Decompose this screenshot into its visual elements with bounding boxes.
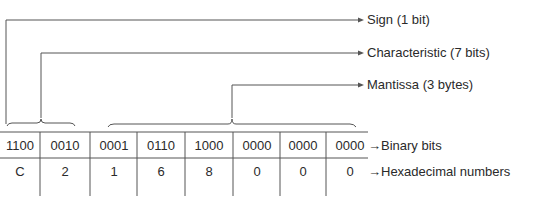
hex-cell: 0 [327, 164, 373, 179]
binary-cell: 0000 [327, 138, 373, 153]
characteristic-label: Characteristic (7 bits) [367, 45, 490, 60]
binary-cell: 0110 [138, 138, 184, 153]
binary-cell: 0010 [42, 138, 88, 153]
hex-cell: 2 [42, 164, 88, 179]
binary-cell: 0000 [280, 138, 326, 153]
hex-cell: C [0, 164, 43, 179]
hex-cell: 8 [186, 164, 232, 179]
sign-label: Sign (1 bit) [367, 12, 430, 27]
binary-cell: 0001 [91, 138, 137, 153]
hex-cell: 6 [138, 164, 184, 179]
binary-cell: 1100 [0, 138, 43, 153]
binary-row-label: →Binary bits [368, 138, 442, 153]
hex-cell: 1 [91, 164, 137, 179]
arrow-right-icon: → [368, 138, 381, 153]
binary-cell: 0000 [234, 138, 280, 153]
hex-cell: 0 [234, 164, 280, 179]
hex-cell: 0 [280, 164, 326, 179]
hex-row-label: →Hexadecimal numbers [368, 164, 510, 179]
mantissa-label: Mantissa (3 bytes) [367, 77, 473, 92]
arrow-right-icon: → [368, 164, 381, 179]
binary-cell: 1000 [186, 138, 232, 153]
